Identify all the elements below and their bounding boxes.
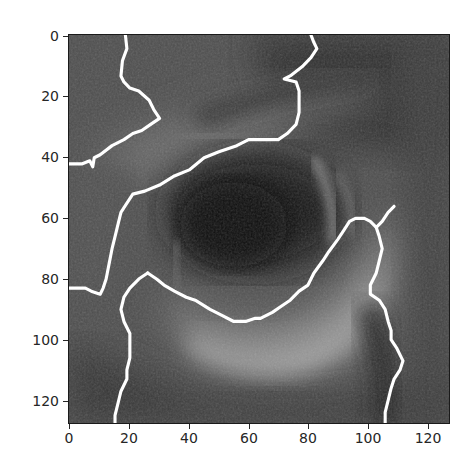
y-tick-label: 80 (41, 272, 59, 286)
eye-image (69, 35, 449, 423)
x-tick-label: 40 (180, 431, 198, 445)
y-tick (63, 279, 68, 280)
y-tick-label: 60 (41, 211, 59, 225)
x-tick-label: 60 (240, 431, 258, 445)
y-tick (63, 157, 68, 158)
figure: 020406080100120 020406080100120 (0, 0, 471, 476)
x-tick (428, 424, 429, 429)
x-tick-label: 0 (65, 431, 74, 445)
y-tick (63, 36, 68, 37)
image-axes (68, 34, 450, 424)
y-tick-label: 120 (32, 394, 59, 408)
y-tick-label: 0 (50, 29, 59, 43)
x-tick (69, 424, 70, 429)
y-tick (63, 218, 68, 219)
x-tick (129, 424, 130, 429)
y-tick-label: 100 (32, 333, 59, 347)
y-tick (63, 401, 68, 402)
y-tick-label: 40 (41, 150, 59, 164)
y-tick (63, 340, 68, 341)
x-tick (368, 424, 369, 429)
x-tick (189, 424, 190, 429)
x-tick (249, 424, 250, 429)
x-tick-label: 120 (415, 431, 442, 445)
x-tick-label: 100 (355, 431, 382, 445)
x-tick-label: 20 (120, 431, 138, 445)
y-tick-label: 20 (41, 89, 59, 103)
x-tick (308, 424, 309, 429)
y-tick (63, 96, 68, 97)
x-tick-label: 80 (299, 431, 317, 445)
